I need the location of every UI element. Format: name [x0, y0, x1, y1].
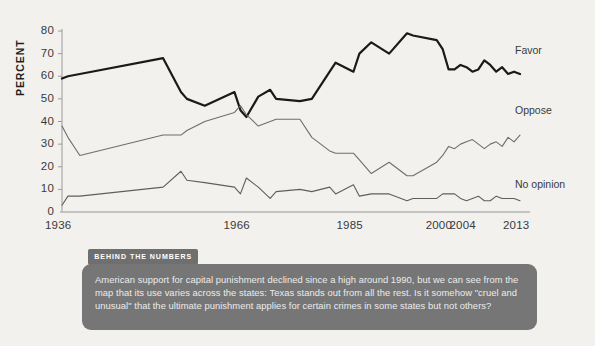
caption-text: American support for capital punishment … [95, 273, 523, 312]
chart-page: PERCENT 01020304050607080 19361966198520… [0, 0, 595, 346]
series-line-favor [62, 33, 520, 117]
caption-box: American support for capital punishment … [82, 264, 537, 330]
line-chart-svg [0, 0, 595, 240]
series-line-oppose [62, 106, 520, 176]
axis-lines [58, 29, 530, 212]
chart-area: PERCENT 01020304050607080 19361966198520… [0, 0, 595, 240]
series-line-no-opinion [62, 171, 520, 205]
series-paths [62, 33, 520, 205]
behind-the-numbers-badge: BEHIND THE NUMBERS [88, 249, 198, 265]
